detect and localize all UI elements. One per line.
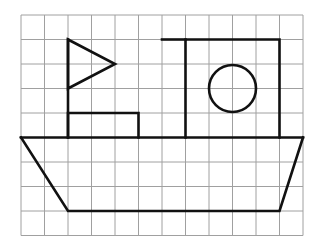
- boat-grid-drawing: [0, 0, 321, 242]
- small-rectangle: [68, 113, 139, 138]
